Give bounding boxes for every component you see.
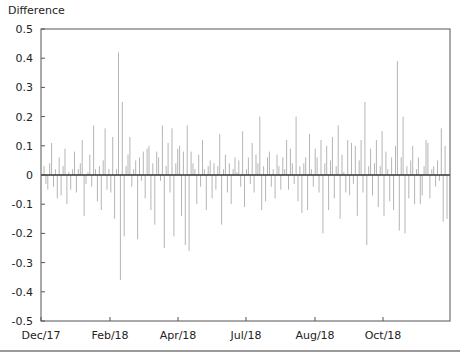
y-tick-label: 0.4 bbox=[16, 52, 34, 65]
y-tick-label: -0.1 bbox=[12, 198, 33, 211]
y-tick-label: 0.3 bbox=[16, 81, 34, 94]
x-tick-label: Jul/18 bbox=[230, 329, 262, 342]
x-tick-label: Dec/17 bbox=[22, 329, 61, 342]
bar-series bbox=[44, 52, 447, 280]
y-axis: 0.50.40.30.20.10-0.1-0.2-0.3-0.4-0.5 bbox=[12, 23, 45, 328]
x-tick-label: Oct/18 bbox=[365, 329, 402, 342]
y-tick-label: -0.5 bbox=[12, 315, 33, 328]
bar-chart: 0.50.40.30.20.10-0.1-0.2-0.3-0.4-0.5 Dec… bbox=[0, 0, 460, 355]
y-tick-label: 0 bbox=[26, 169, 33, 182]
x-tick-label: Feb/18 bbox=[91, 329, 128, 342]
y-tick-label: -0.4 bbox=[12, 286, 33, 299]
y-tick-label: -0.2 bbox=[12, 227, 33, 240]
y-tick-label: 0.2 bbox=[16, 111, 34, 124]
x-tick-label: Apr/18 bbox=[160, 329, 197, 342]
bottom-divider bbox=[0, 350, 460, 352]
x-tick-label: Aug/18 bbox=[295, 329, 334, 342]
y-tick-label: -0.3 bbox=[12, 257, 33, 270]
y-tick-label: 0.5 bbox=[16, 23, 34, 36]
y-tick-label: 0.1 bbox=[16, 140, 34, 153]
